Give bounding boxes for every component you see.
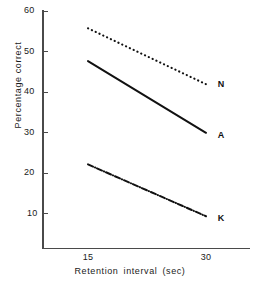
y-axis-tick <box>43 213 48 214</box>
series-line-K <box>88 164 206 216</box>
y-axis-tick <box>43 51 48 52</box>
x-axis-tick-label: 30 <box>201 252 212 262</box>
x-axis-line <box>42 248 250 250</box>
y-axis-tick <box>43 11 48 12</box>
series-label-K: K <box>218 213 225 223</box>
series-line-N <box>88 28 206 84</box>
y-axis-tick <box>43 173 48 174</box>
x-axis-title: Retention interval (sec) <box>0 266 260 276</box>
x-axis-tick-label: 15 <box>83 252 94 262</box>
y-axis-tick <box>43 132 48 133</box>
y-axis-title: Percentage correct <box>13 25 23 145</box>
plot-area <box>0 0 260 283</box>
y-axis-tick <box>43 92 48 93</box>
series-label-A: A <box>218 130 225 140</box>
series-line-A <box>88 61 206 133</box>
chart-figure: 60 50 40 30 20 10 15 30 Retention interv… <box>0 0 260 283</box>
series-label-N: N <box>218 79 225 89</box>
